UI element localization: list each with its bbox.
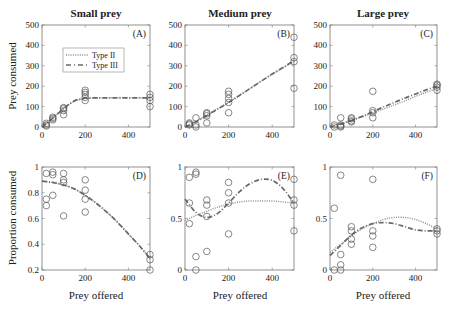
ylabel-proportion-consumed: Proportion consumed — [6, 170, 18, 265]
x-tick-label: 400 — [409, 130, 423, 140]
y-tick-label: 1 — [35, 162, 40, 172]
data-point — [225, 95, 232, 102]
panel-a: 02004000100200300400500(A) — [26, 20, 154, 140]
y-tick-label: 0 — [35, 122, 40, 132]
data-point — [370, 228, 377, 235]
x-tick-label: 400 — [122, 273, 136, 283]
x-tick-label: 200 — [222, 273, 236, 283]
type3-curve — [42, 98, 150, 127]
y-tick-label: 200 — [26, 81, 40, 91]
y-tick-label: 0.8 — [28, 188, 40, 198]
panel-label: (E) — [278, 171, 290, 182]
x-tick-label: 400 — [265, 130, 279, 140]
y-tick-label: 100 — [169, 102, 183, 112]
col-title-large: Large prey — [357, 7, 410, 19]
data-point — [82, 177, 89, 184]
legend-type2-label: Type II — [92, 51, 116, 60]
y-tick-label: 400 — [26, 40, 40, 50]
data-point — [186, 174, 193, 181]
y-tick-label: 200 — [169, 81, 183, 91]
axes-box — [42, 25, 150, 127]
data-point — [82, 187, 89, 194]
data-point — [204, 202, 211, 209]
y-tick-label: 500 — [169, 20, 183, 30]
y-tick-label: 0.2 — [28, 265, 39, 275]
xlabel-d: Prey offered — [69, 289, 124, 301]
y-tick-label: 0.5 — [171, 214, 183, 224]
y-tick-label: 0 — [323, 265, 328, 275]
panel-e: 020040000.51(E) — [171, 162, 298, 283]
data-point — [370, 88, 377, 95]
y-tick-label: 400 — [314, 40, 328, 50]
data-point — [193, 115, 200, 122]
y-tick-label: 400 — [169, 40, 183, 50]
y-tick-label: 500 — [314, 20, 328, 30]
x-tick-label: 200 — [78, 273, 92, 283]
data-point — [348, 228, 355, 235]
x-tick-label: 0 — [328, 273, 333, 283]
x-tick-label: 0 — [183, 273, 188, 283]
data-point — [43, 170, 50, 177]
type3-curve — [330, 86, 437, 127]
data-point — [225, 189, 232, 196]
data-point — [43, 196, 50, 203]
y-tick-label: 1 — [178, 162, 183, 172]
panel-b: 02004000100200300400500(B) — [169, 20, 298, 140]
data-point — [50, 192, 57, 199]
panel-d: 02004000.20.40.60.81(D) — [28, 162, 154, 283]
y-tick-label: 200 — [314, 81, 328, 91]
xlabel-e: Prey offered — [213, 289, 268, 301]
y-tick-label: 0 — [178, 122, 183, 132]
y-tick-label: 1 — [323, 162, 328, 172]
panel-label: (D) — [133, 171, 146, 182]
y-tick-label: 0.5 — [316, 214, 328, 224]
x-tick-label: 400 — [409, 273, 423, 283]
y-tick-label: 0.4 — [28, 239, 40, 249]
x-tick-label: 200 — [78, 130, 92, 140]
data-point — [204, 120, 211, 127]
axes-box — [42, 167, 150, 270]
x-tick-label: 0 — [40, 273, 45, 283]
y-tick-label: 0 — [323, 122, 328, 132]
col-title-medium: Medium prey — [208, 7, 272, 19]
xlabel-f: Prey offered — [356, 289, 411, 301]
data-point — [370, 233, 377, 240]
legend-type3-label: Type III — [92, 61, 118, 70]
type3-curve — [185, 179, 294, 217]
figure: Small prey Medium prey Large prey Prey c… — [0, 0, 449, 312]
data-point — [337, 251, 344, 258]
axes-box — [330, 167, 437, 270]
x-tick-label: 200 — [366, 273, 380, 283]
data-point — [337, 172, 344, 179]
data-point — [370, 244, 377, 251]
data-point — [204, 197, 211, 204]
panel-c: 02004000100200300400500(C) — [314, 20, 441, 140]
panel-label: (A) — [133, 29, 146, 40]
data-point — [337, 115, 344, 122]
y-tick-label: 300 — [169, 61, 183, 71]
data-point — [348, 236, 355, 243]
axes-box — [185, 167, 294, 270]
type3-curve — [330, 223, 437, 256]
data-point — [60, 170, 67, 177]
panel-label: (F) — [421, 171, 433, 182]
type2-curve — [330, 88, 437, 127]
y-tick-label: 100 — [314, 102, 328, 112]
axes-box — [185, 25, 294, 127]
x-tick-label: 400 — [265, 273, 279, 283]
data-point — [225, 231, 232, 238]
data-point — [60, 213, 67, 220]
axes-box — [330, 25, 437, 127]
data-point — [82, 196, 89, 203]
data-point — [370, 176, 377, 183]
x-tick-label: 400 — [122, 130, 136, 140]
x-tick-label: 0 — [328, 130, 333, 140]
y-tick-label: 300 — [26, 61, 40, 71]
data-point — [60, 111, 67, 118]
ylabel-prey-consumed: Prey consumed — [6, 42, 18, 110]
data-point — [204, 248, 211, 255]
y-tick-label: 500 — [26, 20, 40, 30]
x-tick-label: 200 — [366, 130, 380, 140]
data-point — [186, 220, 193, 227]
x-tick-label: 0 — [183, 130, 188, 140]
